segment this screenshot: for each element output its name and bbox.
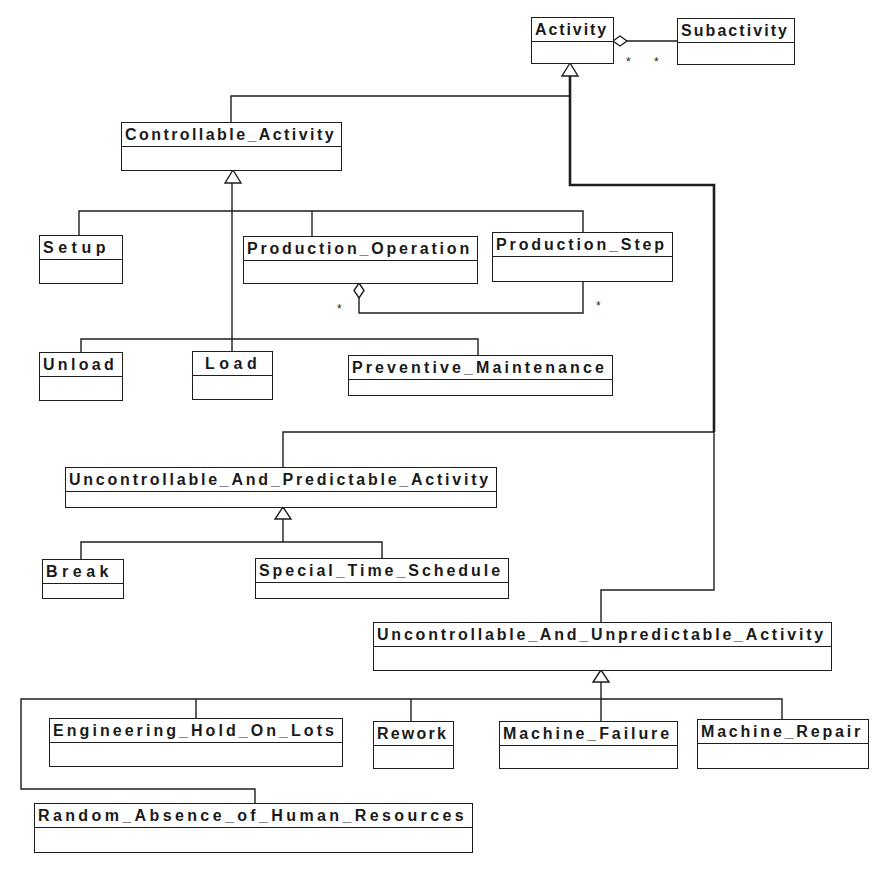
class-subactivity-header: Subactivity (678, 19, 794, 43)
class-unload[interactable]: Unload (39, 352, 123, 401)
class-name: Engineering_Hold_On_Lots (53, 719, 337, 742)
class-name: Unload (43, 353, 117, 376)
class-break[interactable]: Break (42, 559, 124, 599)
class-preventive-maintenance-header: Preventive_Maintenance (349, 356, 612, 380)
class-break-header: Break (43, 560, 123, 584)
class-name: Machine_Repair (701, 720, 863, 743)
class-name: Setup (43, 236, 110, 259)
class-subactivity[interactable]: Subactivity (677, 18, 795, 65)
generalization-bus-lower (81, 339, 478, 355)
uml-class-diagram: * * * * Activity Subactivity (0, 0, 887, 873)
generalization-line-predictable (283, 432, 714, 467)
class-load-header: Load (193, 352, 272, 376)
class-rework-header: Rework (374, 722, 453, 746)
class-name: Machine_Failure (503, 722, 672, 745)
class-name: Break (46, 560, 113, 583)
class-name: Controllable_Activity (125, 123, 336, 146)
generalization-bus-predictable (81, 542, 382, 559)
class-controllable-activity-header: Controllable_Activity (122, 123, 341, 147)
class-name: Special_Time_Schedule (259, 559, 503, 582)
aggregation-diamond-production-operation (354, 283, 364, 298)
class-random-absence-of-human-resources-header: Random_Absence_of_Human_Resources (35, 804, 472, 828)
class-activity[interactable]: Activity (531, 17, 614, 64)
class-machine-repair-header: Machine_Repair (698, 720, 868, 744)
class-machine-failure-header: Machine_Failure (500, 722, 677, 746)
generalization-line-controllable (231, 96, 570, 122)
class-name: Activity (535, 18, 608, 41)
class-name: Preventive_Maintenance (352, 356, 607, 379)
class-random-absence-of-human-resources[interactable]: Random_Absence_of_Human_Resources (34, 803, 473, 853)
class-engineering-hold-on-lots-header: Engineering_Hold_On_Lots (50, 719, 342, 743)
multiplicity-production-step: * (596, 299, 601, 313)
class-production-operation[interactable]: Production_Operation (243, 236, 478, 284)
class-production-step-header: Production_Step (493, 233, 672, 257)
generalization-arrow-unpredictable (593, 670, 609, 682)
class-load[interactable]: Load (192, 351, 273, 400)
class-engineering-hold-on-lots[interactable]: Engineering_Hold_On_Lots (49, 718, 343, 767)
class-name: Load (205, 352, 261, 375)
class-uncontrollable-and-predictable-activity-header: Uncontrollable_And_Predictable_Activity (66, 468, 496, 492)
class-special-time-schedule-header: Special_Time_Schedule (256, 559, 508, 583)
class-name: Random_Absence_of_Human_Resources (38, 804, 467, 827)
class-special-time-schedule[interactable]: Special_Time_Schedule (255, 558, 509, 599)
class-production-step[interactable]: Production_Step (492, 232, 673, 282)
class-name: Production_Step (496, 233, 667, 256)
class-setup[interactable]: Setup (39, 235, 123, 284)
class-unload-header: Unload (40, 353, 122, 377)
class-uncontrollable-and-unpredictable-activity[interactable]: Uncontrollable_And_Unpredictable_Activit… (373, 622, 832, 671)
aggregation-diamond-activity (613, 36, 627, 46)
class-name: Production_Operation (247, 237, 472, 260)
class-machine-failure[interactable]: Machine_Failure (499, 721, 678, 769)
association-operation-step (359, 281, 583, 313)
class-name: Subactivity (681, 19, 789, 42)
class-preventive-maintenance[interactable]: Preventive_Maintenance (348, 355, 613, 396)
class-name: Rework (377, 722, 448, 745)
class-rework[interactable]: Rework (373, 721, 454, 769)
class-production-operation-header: Production_Operation (244, 237, 477, 261)
class-uncontrollable-and-predictable-activity[interactable]: Uncontrollable_And_Predictable_Activity (65, 467, 497, 508)
multiplicity-production-operation: * (337, 302, 342, 316)
class-setup-header: Setup (40, 236, 122, 260)
class-name: Uncontrollable_And_Predictable_Activity (69, 468, 491, 491)
class-activity-header: Activity (532, 18, 613, 42)
class-name: Uncontrollable_And_Unpredictable_Activit… (377, 623, 826, 646)
multiplicity-subactivity: * (654, 55, 659, 69)
generalization-arrow-predictable (275, 507, 291, 519)
class-machine-repair[interactable]: Machine_Repair (697, 719, 869, 769)
class-uncontrollable-and-unpredictable-activity-header: Uncontrollable_And_Unpredictable_Activit… (374, 623, 831, 647)
generalization-arrow-activity (562, 63, 578, 76)
generalization-arrow-controllable (225, 170, 241, 183)
multiplicity-activity: * (626, 55, 631, 69)
generalization-line-unpredictable (601, 432, 714, 622)
class-controllable-activity[interactable]: Controllable_Activity (121, 122, 342, 171)
